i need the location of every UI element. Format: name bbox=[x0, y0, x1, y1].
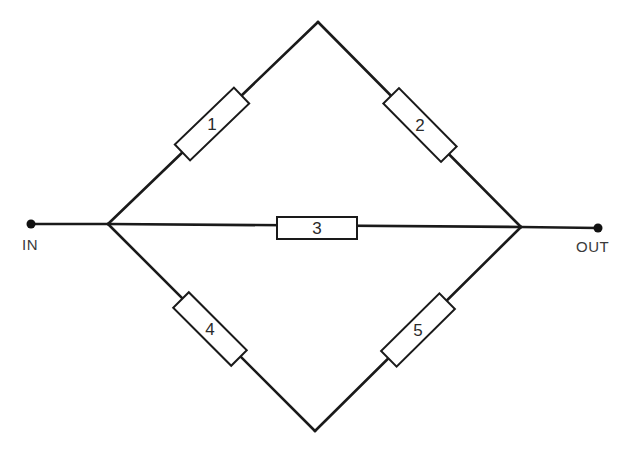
input-terminal-label: IN bbox=[22, 236, 38, 253]
resistor-1-label: 1 bbox=[207, 115, 216, 134]
resistor-5: 5 bbox=[381, 293, 455, 366]
resistor-4-label: 4 bbox=[205, 320, 214, 339]
resistor-3: 3 bbox=[277, 217, 357, 239]
resistor-1: 1 bbox=[175, 88, 249, 161]
resistor-2: 2 bbox=[383, 88, 456, 162]
resistor-2-label: 2 bbox=[415, 116, 424, 135]
output-wire bbox=[521, 227, 598, 228]
resistor-3-label: 3 bbox=[312, 219, 321, 238]
resistor-4: 4 bbox=[173, 292, 247, 366]
resistor-5-label: 5 bbox=[413, 321, 422, 340]
output-terminal-label: OUT bbox=[576, 238, 609, 255]
output-terminal-dot bbox=[594, 224, 603, 233]
bridge-network-diagram: IN OUT 1 2 3 4 5 bbox=[0, 0, 637, 451]
input-terminal-dot bbox=[27, 220, 36, 229]
